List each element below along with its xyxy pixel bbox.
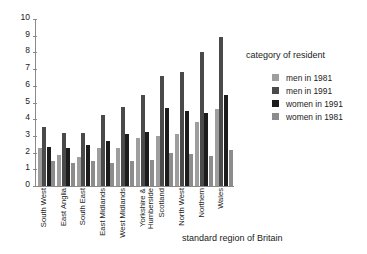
bar-group [175,72,193,186]
bar [66,148,70,186]
x-axis-label: Wales [217,188,225,209]
x-axis-label: Northern [198,188,206,218]
bar [209,156,213,186]
bar [47,147,51,186]
bar-group [136,95,154,186]
bar-group [57,133,75,186]
y-axis-tick-label: 0 [25,180,30,189]
bar-group [116,107,134,186]
bar [229,150,233,186]
legend-swatch [272,113,279,120]
y-axis-tick-label: 2 [25,147,30,156]
legend-item-label: men in 1991 [286,86,332,96]
legend-swatch [272,100,279,107]
bar [51,161,55,186]
bar [224,95,228,186]
bar [141,95,145,186]
bar [200,52,204,186]
bar [145,132,149,186]
bar [42,127,46,186]
x-axis-label: Scotland [158,188,166,218]
bar [97,148,101,186]
x-axis-label: East Midlands [99,188,107,236]
bar [215,109,219,186]
bar [156,136,160,186]
legend-item[interactable]: men in 1991 [272,85,364,97]
bar [195,122,199,186]
bar [125,134,129,186]
y-axis-tick-label: 8 [25,46,30,55]
bar [136,138,140,186]
x-axis-label: West Midlands [119,188,127,238]
y-axis-tick-label: 6 [25,80,30,89]
x-axis-line [36,186,234,187]
legend-swatch [272,87,279,94]
bar-chart: 012345678910 South WestEast AngliaSouth … [0,0,367,254]
x-axis-title: standard region of Britain [182,233,283,243]
bar [169,153,173,186]
y-axis-tick-label: 4 [25,113,30,122]
bar-group [156,76,174,186]
bar [150,160,154,186]
x-axis-label: East Anglia [60,188,68,226]
bar-group [38,127,56,186]
bar [204,113,208,186]
bar [106,141,110,186]
bar [116,148,120,186]
bar [77,157,81,186]
x-axis-label: South East [79,188,87,225]
bar [101,115,105,186]
bar [62,133,66,186]
plot-area [36,19,233,186]
legend: category of resident men in 1981men in 1… [246,50,364,124]
bar [91,161,95,186]
bar [81,133,85,186]
legend-title: category of resident [246,50,364,60]
y-axis-tick-mark [33,186,37,187]
bar [180,72,184,186]
legend-item[interactable]: men in 1981 [272,72,364,84]
legend-item-label: women in 1981 [286,112,343,122]
bar [130,161,134,186]
bar [57,155,61,186]
legend-items: men in 1981men in 1991women in 1991women… [272,72,364,123]
y-axis-tick-label: 10 [21,13,30,22]
bar [175,134,179,186]
y-axis-tick-label: 7 [25,63,30,72]
bar [160,76,164,186]
bar [86,145,90,186]
legend-item[interactable]: women in 1991 [272,98,364,110]
y-axis-tick-label: 5 [25,97,30,106]
legend-swatch [272,74,279,81]
y-axis-tick-label: 1 [25,163,30,172]
bar-group [195,52,213,186]
bar-group [215,37,233,186]
bar-group [97,115,115,186]
bar [219,37,223,186]
bar [165,108,169,186]
bar [38,148,42,186]
x-axis-label: Yorkshire &Humberside [139,188,155,229]
x-axis-label: South West [40,188,48,227]
legend-item-label: women in 1991 [286,99,343,109]
bar [189,154,193,186]
x-axis-label: North West [178,188,186,226]
bar [71,163,75,186]
bar [121,107,125,186]
bar [110,163,114,186]
y-axis-tick-label: 9 [25,30,30,39]
y-axis-tick-label: 3 [25,130,30,139]
bar [185,111,189,186]
legend-item-label: men in 1981 [286,73,332,83]
bar-group [77,133,95,186]
legend-item[interactable]: women in 1981 [272,111,364,123]
